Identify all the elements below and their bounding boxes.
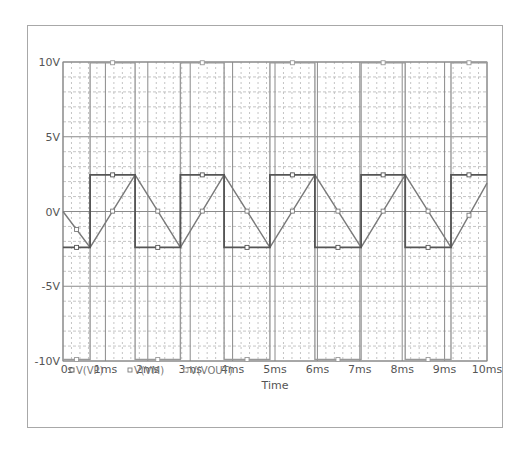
- data-marker: [426, 358, 430, 362]
- data-marker: [426, 245, 430, 249]
- data-marker: [290, 209, 294, 213]
- legend-marker-icon: [70, 368, 74, 372]
- legend-item-label: V(VP): [76, 365, 104, 376]
- data-marker: [200, 209, 204, 213]
- legend-item-label: V(VOUT): [190, 365, 233, 376]
- data-marker: [467, 173, 471, 177]
- data-marker: [336, 358, 340, 362]
- legend-marker-icon: [184, 368, 188, 372]
- data-marker: [75, 245, 79, 249]
- data-marker: [336, 209, 340, 213]
- data-marker: [75, 227, 79, 231]
- data-marker: [467, 61, 471, 65]
- x-tick-label: 5ms: [263, 363, 287, 376]
- data-marker: [156, 358, 160, 362]
- data-marker: [381, 173, 385, 177]
- data-marker: [156, 245, 160, 249]
- legend-item-label: V(VM): [134, 365, 164, 376]
- y-tick-label: -5V: [42, 280, 61, 293]
- data-marker: [156, 209, 160, 213]
- x-tick-label: 6ms: [306, 363, 330, 376]
- y-axis-ticks: 10V5V0V-5V-10V: [35, 56, 61, 368]
- waveform-chart: 10V5V0V-5V-10V 0s1ms2ms3ms4ms5ms6ms7ms8m…: [0, 0, 530, 457]
- data-marker: [245, 358, 249, 362]
- data-marker: [111, 61, 115, 65]
- x-tick-label: 8ms: [390, 363, 414, 376]
- data-marker: [290, 173, 294, 177]
- data-marker: [245, 209, 249, 213]
- data-marker: [426, 209, 430, 213]
- y-tick-label: -10V: [35, 355, 61, 368]
- data-marker: [467, 213, 471, 217]
- x-tick-label: 10ms: [472, 363, 503, 376]
- data-marker: [245, 245, 249, 249]
- legend-marker-icon: [128, 368, 132, 372]
- x-axis-ticks: 0s1ms2ms3ms4ms5ms6ms7ms8ms9ms10ms: [61, 363, 503, 376]
- data-marker: [111, 173, 115, 177]
- y-tick-label: 10V: [38, 56, 60, 69]
- data-marker: [75, 358, 79, 362]
- y-tick-label: 5V: [45, 131, 60, 144]
- legend: V(VP)V(VM)V(VOUT): [70, 365, 233, 376]
- data-marker: [381, 61, 385, 65]
- x-tick-label: 7ms: [348, 363, 372, 376]
- y-tick-label: 0V: [45, 206, 60, 219]
- data-marker: [200, 61, 204, 65]
- data-marker: [381, 209, 385, 213]
- data-marker: [200, 173, 204, 177]
- x-tick-label: 9ms: [433, 363, 457, 376]
- data-marker: [111, 209, 115, 213]
- x-axis-title: Time: [261, 379, 289, 392]
- data-marker: [336, 245, 340, 249]
- data-marker: [290, 61, 294, 65]
